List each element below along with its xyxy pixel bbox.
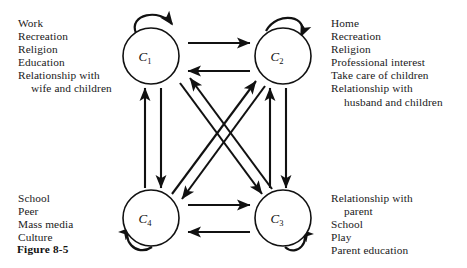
node-c2[interactable]: C2 — [255, 28, 311, 84]
annotation-line: husband and children — [331, 96, 443, 109]
annotation-bottom-left: School Peer Mass media Culture — [18, 192, 73, 244]
node-c4[interactable]: C4 — [123, 190, 179, 246]
figure-caption: Figure 8-5 — [17, 243, 69, 255]
annotation-line: Recreation — [18, 30, 112, 43]
annotation-line: School — [331, 218, 413, 231]
annotation-line: Parent education — [331, 244, 413, 257]
figure-container: C1 C2 C3 C4 Work Recreation Religion Edu… — [0, 0, 467, 268]
annotation-top-left: Work Recreation Religion Education Relat… — [18, 17, 112, 96]
annotation-line: School — [18, 192, 73, 205]
annotation-line: Work — [18, 17, 112, 30]
annotation-line: parent — [331, 205, 413, 218]
annotation-line: Relationship with — [18, 69, 112, 82]
annotation-line: Religion — [331, 43, 443, 56]
annotation-line: Mass media — [18, 218, 73, 231]
annotation-line: Peer — [18, 205, 73, 218]
annotation-line: Relationship with — [331, 82, 443, 95]
node-c3[interactable]: C3 — [255, 190, 311, 246]
annotation-line: Religion — [18, 43, 112, 56]
annotation-bottom-right: Relationship with parent School Play Par… — [331, 192, 413, 257]
annotation-line: Professional interest — [331, 56, 443, 69]
annotation-line: Play — [331, 231, 413, 244]
edge-c1-to-c3 — [180, 83, 262, 194]
annotation-top-right: Home Recreation Religion Professional in… — [331, 17, 443, 109]
annotation-line: Home — [331, 17, 443, 30]
node-c1[interactable]: C1 — [123, 28, 179, 84]
edge-c4-to-c2 — [172, 81, 256, 194]
annotation-line: Take care of children — [331, 69, 443, 82]
annotation-line: Education — [18, 56, 112, 69]
annotation-line: Recreation — [331, 30, 443, 43]
annotation-line: wife and children — [18, 82, 112, 95]
annotation-line: Relationship with — [331, 192, 413, 205]
